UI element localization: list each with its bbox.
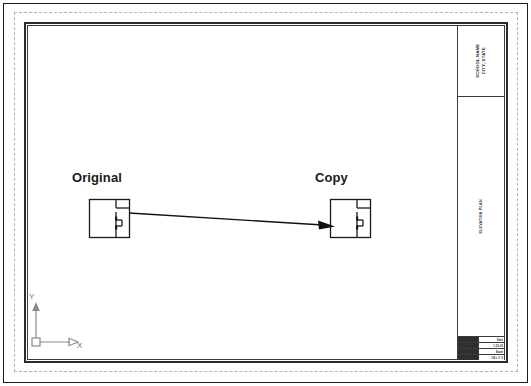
title-block-school-text: SCHOOL NAMECITY, STATE bbox=[475, 43, 486, 77]
ucs-y-axis-label: Y bbox=[29, 292, 34, 301]
label-original: Original bbox=[72, 170, 122, 185]
ucs-icon bbox=[24, 292, 84, 352]
title-block-table-row: 1/4 = 1'-0 bbox=[458, 354, 504, 360]
title-block-info-table: Date 1-22-03 Scale 1/4 = 1'-0 bbox=[458, 337, 504, 360]
copy-direction-arrow bbox=[128, 206, 338, 236]
title-block-sheet-title-text: ELEVATION PLAN bbox=[479, 199, 484, 233]
drawing-area-frame bbox=[27, 25, 505, 360]
title-block-school-cell: SCHOOL NAMECITY, STATE bbox=[458, 25, 504, 97]
title-block-table-key bbox=[458, 355, 479, 360]
title-block-column: SCHOOL NAMECITY, STATE ELEVATION PLAN Da… bbox=[457, 25, 504, 360]
cad-drawing-screenshot: SCHOOL NAMECITY, STATE ELEVATION PLAN Da… bbox=[0, 0, 531, 386]
title-block-sheet-title-cell: ELEVATION PLAN bbox=[458, 97, 504, 337]
ucs-x-axis-label: X bbox=[77, 341, 82, 350]
label-copy: Copy bbox=[315, 170, 348, 185]
title-block-table-value: 1/4 = 1'-0 bbox=[479, 355, 504, 360]
floor-plan-original[interactable] bbox=[88, 198, 132, 240]
